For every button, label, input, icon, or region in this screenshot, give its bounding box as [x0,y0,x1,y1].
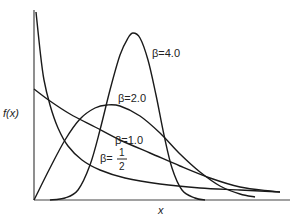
label-beta-4: β=4.0 [152,47,180,59]
weibull-density-chart: f(x) x β=4.0 β=2.0 β=1.0 β= 1 2 [0,0,297,222]
label-beta-half: β= 1 2 [100,147,127,172]
curves [34,12,280,200]
label-beta-1: β=1.0 [115,134,143,146]
label-beta-2: β=2.0 [118,92,146,104]
y-axis-label: f(x) [3,107,19,119]
curve--2-0 [34,105,255,200]
label-beta-half-prefix: β= [100,152,113,164]
curve--1-0 [34,89,280,192]
x-axis-label: x [157,204,164,216]
label-beta-half-den: 2 [119,161,125,172]
label-beta-half-num: 1 [119,147,125,158]
